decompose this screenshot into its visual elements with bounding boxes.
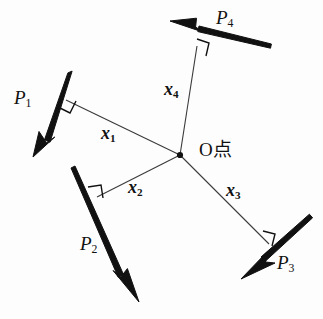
arm-label-x3: x3	[226, 181, 241, 201]
force-arrowhead-P2	[113, 269, 139, 302]
force-diagram-figure: P1 P2 P3 P4 x1 x2 x3 x4 O点	[0, 0, 323, 319]
arm-label-x2: x2	[128, 178, 143, 198]
moment-arm-line-x1	[66, 100, 180, 155]
force-vectors	[33, 18, 313, 302]
force-label-P3-subscript: 3	[289, 262, 295, 275]
arm-label-x4-subscript: 4	[173, 88, 179, 100]
moment-arm-line-x3	[180, 155, 269, 244]
arm-label-x3-text: x	[226, 180, 235, 200]
arm-label-x1: x1	[101, 124, 116, 144]
arm-label-x1-subscript: 1	[110, 132, 116, 144]
arm-label-x4: x4	[164, 80, 179, 100]
force-label-P3-text: P	[277, 252, 289, 273]
origin-label: O点	[199, 140, 232, 159]
arm-label-x2-text: x	[128, 177, 137, 197]
force-vector-P1	[33, 71, 72, 157]
force-shaft-P1	[45, 71, 73, 142]
force-diagram-canvas	[0, 0, 323, 319]
force-label-P4-subscript: 4	[228, 17, 234, 30]
force-arrowhead-P4	[170, 18, 204, 32]
arm-label-x4-text: x	[164, 79, 173, 99]
origin-point-dot	[177, 152, 183, 158]
right-angle-markers	[58, 39, 275, 246]
arm-label-x1-text: x	[101, 123, 110, 143]
arm-label-x2-subscript: 2	[137, 186, 143, 198]
force-label-P4: P4	[216, 8, 234, 30]
force-shaft-P2	[71, 166, 124, 277]
arm-label-x3-subscript: 3	[235, 189, 241, 201]
force-label-P1-subscript: 1	[26, 97, 32, 110]
force-label-P2: P2	[80, 234, 98, 256]
force-label-P1: P1	[14, 88, 32, 110]
right-angle-marker-x4	[197, 39, 209, 56]
force-label-P3: P3	[277, 253, 295, 275]
right-angle-marker-x2	[88, 185, 103, 198]
moment-arm-line-x4	[180, 46, 197, 155]
force-label-P1-text: P	[14, 87, 26, 108]
force-label-P4-text: P	[216, 7, 228, 28]
force-label-P2-subscript: 2	[92, 243, 98, 256]
force-label-P2-text: P	[80, 233, 92, 254]
